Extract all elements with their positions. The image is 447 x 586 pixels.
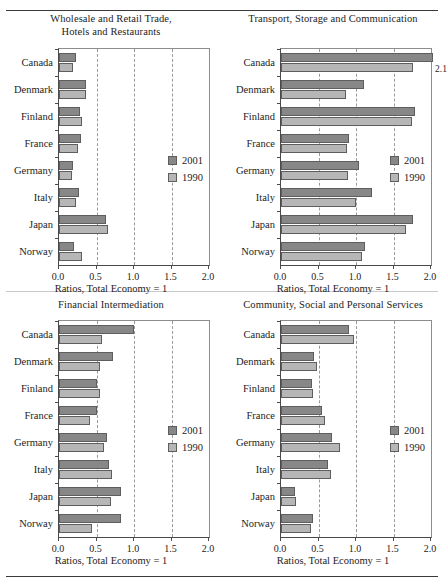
category-label: Norway (241, 246, 275, 257)
y-axis-tick (55, 510, 59, 511)
bar-japan-1990 (281, 225, 406, 234)
bar-finland-2001 (281, 107, 415, 116)
y-axis-tick (55, 238, 59, 239)
category-row: Norway (59, 238, 209, 265)
x-axis-tick-label: 2.0 (202, 543, 215, 554)
category-label: Finland (21, 111, 53, 122)
bar-denmark-2001 (281, 80, 364, 89)
bar-france-2001 (281, 134, 349, 143)
category-label: Italy (256, 464, 275, 475)
bar-italy-1990 (281, 470, 331, 479)
x-axis-tick-label: 1.5 (386, 543, 399, 554)
category-row: Japan (281, 211, 431, 238)
x-axis-tick-label: 0.0 (52, 543, 65, 554)
legend-swatch-icon (390, 173, 399, 182)
bar-finland-2001 (59, 107, 80, 116)
x-axis-tick (355, 265, 356, 269)
bar-japan-2001 (59, 215, 106, 224)
category-row: Japan (281, 483, 431, 510)
x-axis-tick (133, 265, 134, 269)
category-label: Germany (14, 165, 53, 176)
x-axis-tick-label: 1.0 (127, 271, 140, 282)
bar-canada-2001 (59, 325, 134, 334)
category-row: Canada (281, 321, 431, 348)
legend-item-2001: 2001 (390, 422, 425, 439)
category-label: Norway (19, 518, 53, 529)
bar-italy-1990 (281, 198, 356, 207)
bar-canada-1990 (281, 63, 413, 72)
bar-norway-1990 (59, 252, 82, 261)
chart-title-line2: Hotels and Restaurants (0, 25, 222, 38)
category-label: Denmark (236, 356, 275, 367)
category-row: Italy (59, 456, 209, 483)
legend-swatch-icon (390, 156, 399, 165)
category-label: Germany (236, 165, 275, 176)
bar-france-1990 (59, 144, 78, 153)
bar-denmark-1990 (281, 362, 317, 371)
bar-canada-1990 (59, 335, 102, 344)
x-axis-tick (133, 537, 134, 541)
category-row: Canada (59, 49, 209, 76)
y-axis-tick (277, 103, 281, 104)
bar-denmark-1990 (59, 362, 100, 371)
x-axis-tick (318, 265, 319, 269)
chart-panel-transport-storage-communication: Transport, Storage and Communication Can… (222, 12, 444, 298)
bar-norway-2001 (59, 514, 121, 523)
bar-canada-1990 (281, 335, 354, 344)
bar-germany-2001 (281, 433, 332, 442)
bar-finland-2001 (59, 379, 97, 388)
category-label: Canada (22, 329, 54, 340)
legend-item-2001: 2001 (168, 152, 203, 169)
x-axis-tick (208, 537, 209, 541)
legend-label: 2001 (182, 425, 203, 436)
category-row: Denmark (59, 76, 209, 103)
legend-swatch-icon (168, 156, 177, 165)
category-label: Finland (21, 383, 53, 394)
x-axis-tick (355, 537, 356, 541)
legend: 20011990 (390, 422, 425, 456)
category-row: Canada (281, 49, 431, 76)
chart-title-line1: Transport, Storage and Communication (222, 12, 444, 25)
legend-swatch-icon (390, 426, 399, 435)
bar-norway-2001 (281, 242, 365, 251)
chart-title-line1: Financial Intermediation (0, 298, 222, 311)
category-label: Finland (243, 383, 275, 394)
x-axis-tick-label: 1.0 (127, 543, 140, 554)
category-label: Denmark (236, 84, 275, 95)
legend-item-1990: 1990 (168, 439, 203, 456)
x-axis-tick-label: 0.5 (89, 271, 102, 282)
y-axis-tick (277, 157, 281, 158)
category-label: France (24, 138, 53, 149)
category-row: Italy (281, 456, 431, 483)
legend-label: 2001 (182, 155, 203, 166)
x-axis-tick-label: 0.5 (89, 543, 102, 554)
bar-finland-1990 (59, 117, 82, 126)
bar-france-2001 (59, 406, 97, 415)
chart-title-line1: Community, Social and Personal Services (222, 298, 444, 311)
x-axis-tick (318, 537, 319, 541)
legend: 20011990 (168, 422, 203, 456)
y-axis-tick (277, 184, 281, 185)
y-axis-tick (277, 211, 281, 212)
bar-italy-2001 (281, 460, 328, 469)
y-axis-tick (55, 483, 59, 484)
bar-germany-1990 (59, 171, 72, 180)
bar-italy-2001 (281, 188, 372, 197)
category-row: Japan (59, 211, 209, 238)
y-axis-tick (55, 103, 59, 104)
x-axis-tick (393, 537, 394, 541)
category-label: Denmark (14, 356, 53, 367)
bar-france-1990 (281, 416, 325, 425)
bar-canada-2001 (281, 53, 433, 62)
bar-france-2001 (281, 406, 322, 415)
bar-japan-1990 (59, 225, 108, 234)
y-axis-tick (55, 321, 59, 322)
chart-panel-community-social-personal-services: Community, Social and Personal Services … (222, 298, 444, 584)
x-axis-tick (280, 265, 281, 269)
y-axis-tick (55, 402, 59, 403)
category-label: Denmark (14, 84, 53, 95)
bar-norway-1990 (59, 524, 92, 533)
category-label: Germany (14, 437, 53, 448)
chart-title-line1: Wholesale and Retail Trade, (0, 12, 222, 25)
